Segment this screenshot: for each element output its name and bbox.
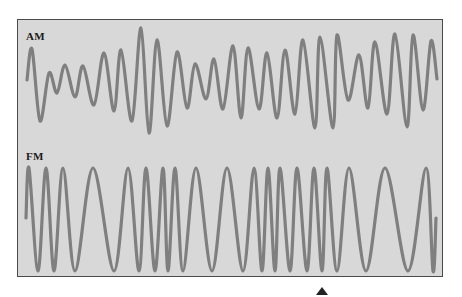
fm-waveform xyxy=(26,167,436,272)
waveform-plot xyxy=(0,0,462,297)
am-fm-modulation-figure: AM FM xyxy=(0,0,462,297)
am-waveform xyxy=(27,28,437,133)
triangle-up-icon xyxy=(316,287,328,295)
